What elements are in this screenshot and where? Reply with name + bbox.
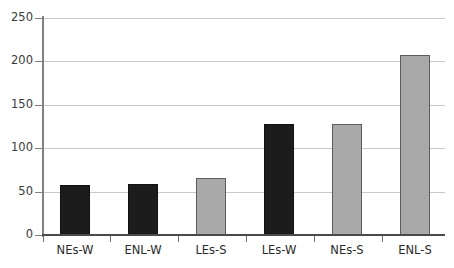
x-label-les-s: LEs-S	[176, 245, 246, 257]
x-tick-mark-0	[43, 236, 44, 242]
bar-enl-s[interactable]	[400, 55, 430, 235]
y-tick-label-0-wrap: 0	[0, 229, 33, 241]
y-tick-label-150: 150	[3, 99, 33, 111]
y-tick-mark-100	[35, 148, 42, 149]
y-tick-label-250: 250	[3, 12, 33, 24]
y-tick-label-200: 200	[3, 55, 33, 67]
bar-nes-s[interactable]	[332, 124, 362, 235]
x-label-nes-w: NEs-W	[40, 245, 110, 257]
bar-chart: 250 200 150 100 50 0 NEs-W ENL-W LEs-S L…	[0, 0, 454, 268]
bar-les-w[interactable]	[264, 124, 294, 235]
y-tick-mark-250	[35, 18, 42, 19]
x-tick-mark-4	[314, 236, 315, 242]
bar-les-s[interactable]	[196, 178, 226, 235]
x-label-les-w: LEs-W	[244, 245, 314, 257]
y-tick-mark-50	[35, 192, 42, 193]
x-label-enl-s: ENL-S	[380, 245, 450, 257]
y-tick-mark-0	[35, 235, 42, 236]
y-tick-label-250-wrap: 250	[0, 12, 33, 24]
bars-layer	[42, 18, 445, 235]
y-tick-mark-150	[35, 105, 42, 106]
x-label-enl-w: ENL-W	[108, 245, 178, 257]
y-tick-label-150-wrap: 150	[0, 99, 33, 111]
y-tick-label-50-wrap: 50	[0, 186, 33, 198]
y-tick-label-100-wrap: 100	[0, 142, 33, 154]
y-tick-label-200-wrap: 200	[0, 55, 33, 67]
x-tick-mark-3	[246, 236, 247, 242]
y-tick-label-100: 100	[3, 142, 33, 154]
x-tick-mark-2	[178, 236, 179, 242]
x-tick-mark-5	[382, 236, 383, 242]
y-tick-label-0: 0	[3, 229, 33, 241]
bar-enl-w[interactable]	[128, 184, 158, 235]
x-label-nes-s: NEs-S	[312, 245, 382, 257]
bar-nes-w[interactable]	[60, 185, 90, 235]
y-tick-label-50: 50	[3, 186, 33, 198]
x-axis-line	[42, 234, 445, 236]
y-tick-mark-200	[35, 61, 42, 62]
x-tick-mark-1	[110, 236, 111, 242]
